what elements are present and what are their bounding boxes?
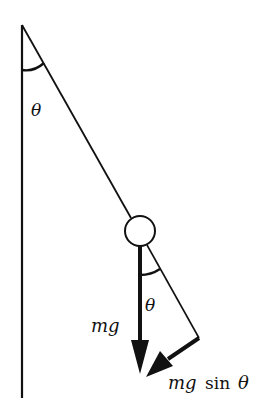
weight-arrowhead	[131, 340, 149, 374]
tangential-label-mg: mg	[168, 372, 197, 393]
tangential-label-theta: θ	[238, 372, 249, 393]
pendulum-string	[22, 25, 131, 218]
angle-arc-bob	[140, 269, 160, 275]
tangential-arrow-shaft	[168, 338, 199, 359]
string-extension-line	[147, 245, 199, 338]
pendulum-diagram: θ θ mg mg sin θ	[0, 0, 269, 418]
theta-label-bob: θ	[145, 295, 155, 315]
angle-arc-top	[22, 63, 44, 70]
theta-label-top: θ	[31, 100, 41, 120]
tangential-label-sin: sin	[205, 373, 230, 393]
weight-label: mg	[91, 315, 120, 336]
pendulum-bob	[125, 216, 155, 246]
